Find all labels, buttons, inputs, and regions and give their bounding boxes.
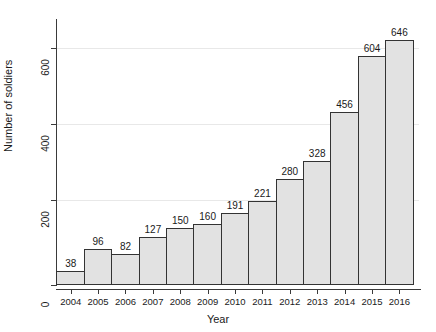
x-tick-mark [262,289,263,294]
bar-slot: 38 [57,20,84,285]
bar-value-label: 280 [276,166,303,177]
bar-slot: 280 [276,20,303,285]
bar-slot: 150 [167,20,194,285]
x-tick-mark [345,289,346,294]
bar-slot: 604 [358,20,385,285]
x-tick-label: 2016 [382,296,417,307]
x-tick-mark [125,289,126,294]
bar-slot: 646 [386,20,413,285]
y-tick-label-200: 200 [40,200,51,240]
bar[interactable] [84,249,113,285]
bar[interactable] [303,161,332,285]
x-tick-mark [372,289,373,294]
bar-slot: 96 [84,20,111,285]
bar[interactable] [358,56,387,285]
bar-value-label: 160 [194,211,221,222]
bar-value-label: 604 [358,43,385,54]
bar-value-label: 150 [167,215,194,226]
x-tick-mark [208,289,209,294]
bar[interactable] [139,237,168,285]
x-tick-mark [180,289,181,294]
bar-series: 389682127150160191221280328456604646 [57,20,413,285]
y-axis-title: Number of soldiers [2,60,14,152]
bar-value-label: 127 [139,224,166,235]
bar-value-label: 221 [249,188,276,199]
bar-slot: 456 [331,20,358,285]
y-tick-mark-0 [51,285,57,286]
bar-value-label: 96 [84,236,111,247]
x-tick-mark [153,289,154,294]
bar-chart: 0 200 400 600 Number of soldiers 3896821… [0,0,436,332]
x-tick-mark [235,289,236,294]
bar[interactable] [330,112,359,285]
bar-value-label: 82 [112,241,139,252]
x-tick-mark [71,289,72,294]
bar-value-label: 646 [386,27,413,38]
bar-slot: 191 [221,20,248,285]
bar[interactable] [111,254,140,285]
y-tick-label-600: 600 [40,48,51,88]
bar-value-label: 328 [304,148,331,159]
bar-slot: 127 [139,20,166,285]
bar[interactable] [221,213,250,285]
bar-slot: 82 [112,20,139,285]
bar[interactable] [56,271,85,285]
x-tick-mark [399,289,400,294]
x-axis-title: Year [0,313,436,325]
bar[interactable] [166,228,195,285]
bar[interactable] [276,179,305,285]
bar[interactable] [193,224,222,285]
x-tick-mark [317,289,318,294]
x-tick-mark [290,289,291,294]
bar-value-label: 38 [57,258,84,269]
bar-slot: 221 [249,20,276,285]
bar-value-label: 456 [331,99,358,110]
y-tick-label-400: 400 [40,124,51,164]
x-tick-mark [98,289,99,294]
bar-slot: 160 [194,20,221,285]
bar-value-label: 191 [221,200,248,211]
bar[interactable] [385,40,414,285]
bar-slot: 328 [304,20,331,285]
bar[interactable] [248,201,277,285]
